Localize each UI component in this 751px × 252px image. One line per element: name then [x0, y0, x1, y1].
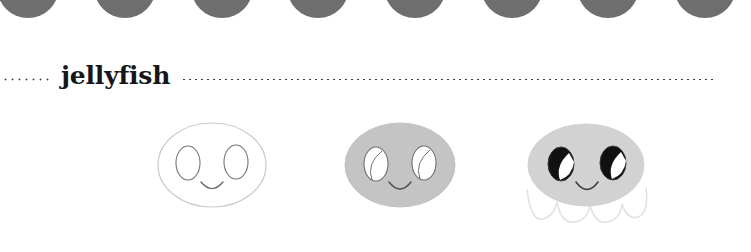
jellyfish-drawing-shaded — [345, 123, 455, 207]
dotted-rule-left — [0, 78, 52, 81]
eye-left — [176, 146, 200, 180]
dotted-rule-right — [181, 78, 717, 81]
jellyfish-head — [158, 123, 266, 207]
tutorial-step-2 — [328, 118, 508, 252]
tutorial-step-1 — [140, 118, 320, 252]
jellyfish-head — [528, 124, 644, 206]
eye-left — [548, 147, 574, 181]
scalloped-circle-band — [0, 0, 751, 24]
eye-right — [224, 145, 248, 179]
jellyfish-drawing-outline — [158, 123, 266, 207]
jellyfish-drawing-finished — [527, 124, 647, 222]
tutorial-steps — [0, 118, 751, 252]
scallop-circle — [287, 0, 349, 18]
scallop-circle — [191, 0, 253, 18]
tutorial-page: jellyfish — [0, 0, 751, 252]
jellyfish-head — [345, 123, 455, 207]
scallop-circle — [577, 0, 639, 18]
mouth-smile — [201, 182, 223, 189]
eye-right — [412, 146, 436, 180]
scallop-circle — [674, 0, 736, 18]
eye-left — [364, 147, 388, 181]
scallop-circle — [384, 0, 446, 18]
scallop-circle — [481, 0, 543, 18]
eye-right — [600, 146, 626, 180]
tutorial-step-3 — [505, 118, 685, 252]
scallop-circle — [0, 0, 59, 18]
scallop-circle — [94, 0, 156, 18]
page-title: jellyfish — [52, 63, 181, 88]
section-heading-row: jellyfish — [0, 58, 751, 92]
